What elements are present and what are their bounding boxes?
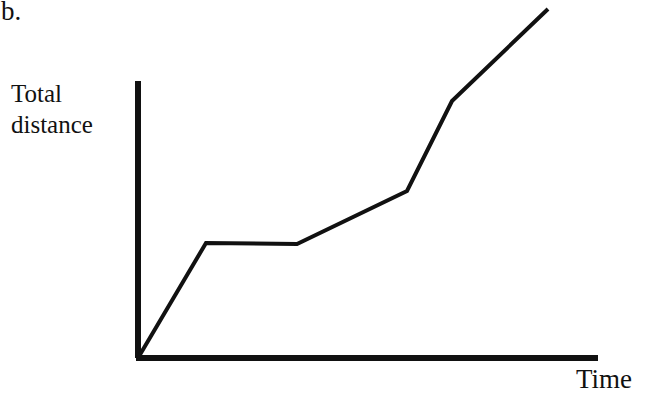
distance-time-polyline	[138, 9, 548, 358]
plot-area	[0, 0, 666, 411]
figure-container: b. Total distance Time	[0, 0, 666, 411]
